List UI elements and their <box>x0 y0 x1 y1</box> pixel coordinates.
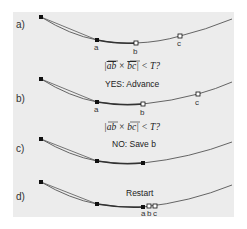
point-a-label: a <box>94 43 99 52</box>
point-a-marker <box>95 100 99 104</box>
panel-label-c: c) <box>16 143 24 154</box>
saved-point-b-marker <box>141 161 145 165</box>
panel-b: |ab × bc| < T? YES: Advance b) a b c <box>16 61 232 117</box>
processed-segment <box>97 102 143 105</box>
point-b-marker <box>134 41 138 45</box>
chord <box>41 79 97 102</box>
point-b-marker <box>141 102 145 106</box>
point-a-label: a <box>141 209 146 218</box>
anchor-point <box>39 180 43 184</box>
decision-caption: YES: Advance <box>105 79 160 89</box>
processed-segment <box>97 161 143 164</box>
formula-times: × <box>116 122 127 132</box>
criterion-formula: |ab × bc| < T? <box>104 122 160 132</box>
point-a-marker <box>95 159 99 163</box>
curve <box>41 17 232 43</box>
anchor-point <box>39 15 43 19</box>
point-a-label: a <box>94 105 99 114</box>
point-c-label: c <box>195 98 199 107</box>
anchor-point <box>39 77 43 81</box>
panel-c: |ab × bc| < T? NO: Save b c) <box>16 122 232 165</box>
panel-label-a: a) <box>16 19 25 30</box>
point-c-marker <box>196 92 200 96</box>
anchor-point <box>39 137 43 141</box>
curve-simplification-diagram: a) a b c |ab × bc| < T? YES: Advance b) … <box>0 0 247 229</box>
previous-point-marker <box>95 202 99 206</box>
point-c-label: c <box>177 39 181 48</box>
formula-threshold: < T? <box>139 122 160 132</box>
chord <box>41 17 97 40</box>
point-b-label: b <box>133 47 138 56</box>
formula-threshold: < T? <box>139 61 160 71</box>
formula-times: × <box>116 61 127 71</box>
point-b-marker <box>147 204 151 208</box>
chord <box>41 182 97 204</box>
vector-ab: ab <box>107 122 117 132</box>
panel-label-b: b) <box>16 93 25 104</box>
point-c-label: c <box>153 209 157 218</box>
chord <box>41 139 97 161</box>
panel-a: a) a b c <box>16 15 232 56</box>
panel-label-d: d) <box>16 191 25 202</box>
point-c-marker <box>153 204 157 208</box>
decision-caption: NO: Save b <box>112 139 156 149</box>
point-c-marker <box>178 34 182 38</box>
decision-caption: Restart <box>126 188 154 198</box>
processed-segment <box>97 204 143 207</box>
processed-segment <box>97 40 136 43</box>
point-b-label: b <box>147 209 152 218</box>
point-a-marker <box>95 38 99 42</box>
point-b-label: b <box>140 108 145 117</box>
vector-ab: ab <box>107 61 117 71</box>
panel-d: Restart d) a b c <box>16 180 232 218</box>
criterion-formula: |ab × bc| < T? <box>104 61 160 71</box>
